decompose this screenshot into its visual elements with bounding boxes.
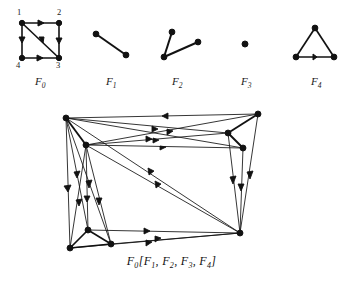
arrowhead-4-3 [37,55,43,61]
caption-F0: F0 [127,254,139,268]
vertex-right [331,54,337,60]
arrowhead-A1-B3 [146,136,152,142]
graph-F2 [161,29,201,60]
arrowhead-1-2 [38,20,44,26]
caption-F3: F3 [181,254,193,268]
vertex-a [242,41,248,47]
arrowhead-A2-D1 [84,196,90,202]
edge-1-3 [22,23,59,58]
arrowhead-A1-D2 [64,185,71,192]
arrowhead-1-4 [19,37,25,43]
tick-left-right [313,54,317,60]
edge-apex-left [296,28,315,57]
arrowhead-2-3 [56,38,62,44]
caption-F4: F4 [199,254,211,268]
vertex-2 [56,20,61,25]
caption-F1: F1 [144,254,156,268]
graph-F3 [242,41,248,47]
comp-edge-A2-D1 [86,145,88,230]
vertex-b [123,52,129,58]
vertex-label-1: 1 [17,7,21,17]
composition-graph [63,111,261,251]
vertex-left [293,54,299,60]
edge-apex-right [315,28,334,57]
caption-F2: F2 [162,254,174,268]
comp-edge-A1-C1 [66,118,240,233]
vertex-a [93,31,99,37]
vertex-label-3: 3 [56,60,60,70]
comp-vertex-C1 [237,230,243,236]
comp-edge-D3-C1 [111,233,240,244]
comp-vertex-B2 [225,130,231,136]
comp-edge-D3-D1 [88,230,111,244]
comp-edge-A2-C1 [86,145,240,233]
edge-a-b [96,34,126,55]
comp-vertex-D2 [67,245,73,251]
vertex-1 [19,20,24,25]
vertex-label-2: 2 [57,7,61,17]
factor-label-F1: F1 [106,75,116,90]
graph-F0 [19,20,62,61]
comp-vertex-B1 [255,111,261,117]
graph-F1 [93,31,129,58]
comp-edge-A2-D2 [70,145,86,248]
arrowhead-B3-C1 [238,184,244,191]
arrowhead-A2-B3 [160,146,166,150]
arrowhead-D3-C1 [155,236,161,242]
arrowhead-A1-B1 [162,113,168,119]
comp-vertex-A2 [83,142,89,148]
comp-edge-D1-C1 [88,230,240,233]
vertex-b [161,54,167,60]
comp-vertex-D3 [108,241,114,247]
factor-label-F0: F0 [35,75,45,90]
arrowhead-A1-B2 [152,126,158,132]
composition-caption: F0[F1, F2, F3, F4] [0,254,343,270]
vertex-apex [312,25,318,31]
factor-label-F2: F2 [172,75,182,90]
comp-edge-A1-B2 [66,118,228,133]
vertex-label-4: 4 [16,60,20,70]
arrowhead-A1-D1 [74,171,80,178]
comp-vertex-A1 [63,115,69,121]
arrowhead-B2-C1 [230,176,236,184]
arrowhead-B1-C1 [247,171,253,179]
comp-vertex-D1 [85,227,91,233]
vertex-c [195,39,201,45]
vertex-a [169,29,175,35]
factor-label-F3: F3 [241,75,251,90]
factor-label-F4: F4 [311,75,321,90]
graph-F4 [293,25,337,60]
arrowhead-D1-C1 [144,228,150,234]
graph-composition-figure [0,0,343,286]
comp-vertex-B3 [240,145,246,151]
